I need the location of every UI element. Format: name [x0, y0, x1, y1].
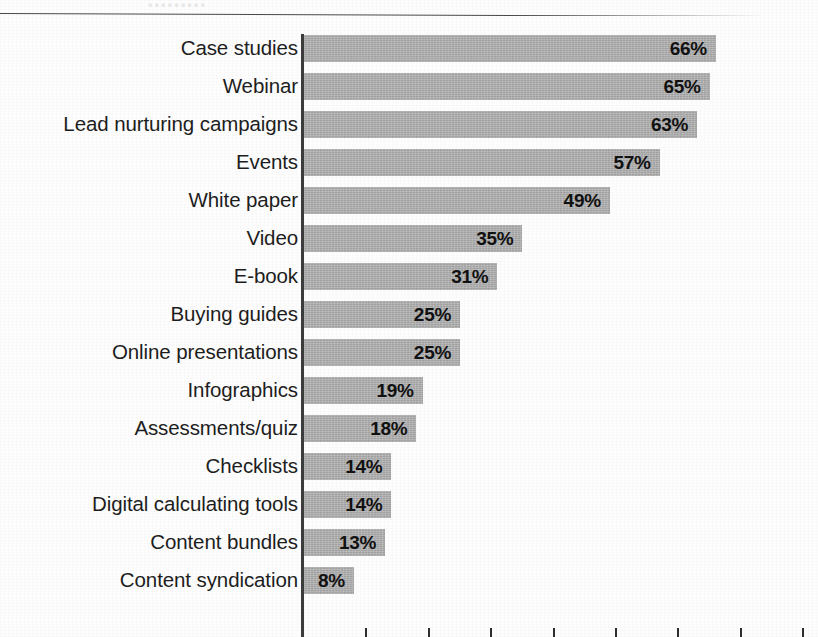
- bar-row: E-book31%: [0, 262, 818, 300]
- bar-category-label: Checklists: [206, 452, 298, 480]
- bar-value-label: 66%: [670, 37, 707, 60]
- bar-rows-container: Case studies66%Webinar65%Lead nurturing …: [0, 34, 818, 604]
- bar-row: Assessments/quiz18%: [0, 414, 818, 452]
- bar-row: Content bundles13%: [0, 528, 818, 566]
- category-axis-line: [301, 34, 304, 637]
- x-axis-tick: [802, 628, 804, 637]
- x-axis-tick: [428, 628, 430, 637]
- bar-row: Digital calculating tools14%: [0, 490, 818, 528]
- bar-category-label: Webinar: [223, 72, 298, 100]
- bar-category-label: White paper: [189, 186, 298, 214]
- bar: 25%: [304, 301, 460, 328]
- bar-row: Events57%: [0, 148, 818, 186]
- x-axis-tick: [615, 628, 617, 637]
- bar: 49%: [304, 187, 610, 214]
- bar-value-label: 35%: [476, 227, 513, 250]
- bar-row: Checklists14%: [0, 452, 818, 490]
- bar-value-label: 13%: [339, 531, 376, 554]
- bar-category-label: Infographics: [188, 376, 298, 404]
- bar-row: Content syndication8%: [0, 566, 818, 604]
- bar-value-label: 31%: [451, 265, 488, 288]
- bar: 31%: [304, 263, 497, 290]
- x-axis-tick: [677, 628, 679, 637]
- bar-row: Webinar65%: [0, 72, 818, 110]
- bar: 13%: [304, 529, 385, 556]
- bar-category-label: Content bundles: [150, 528, 298, 556]
- bar-category-label: Content syndication: [120, 566, 298, 594]
- cut-off-header-text: •••••••••: [148, 0, 348, 8]
- bar-value-label: 25%: [414, 303, 451, 326]
- bar-row: Buying guides25%: [0, 300, 818, 338]
- bar-category-label: Case studies: [181, 34, 298, 62]
- x-axis-tick: [365, 628, 367, 637]
- bar: 63%: [304, 111, 697, 138]
- x-axis-tick-marks: [0, 628, 818, 637]
- bar-value-label: 65%: [663, 75, 700, 98]
- bar-value-label: 8%: [318, 569, 345, 592]
- bar-value-label: 18%: [370, 417, 407, 440]
- bar: 14%: [304, 491, 391, 518]
- bar-category-label: Lead nurturing campaigns: [63, 110, 298, 138]
- bar: 25%: [304, 339, 460, 366]
- bar-category-label: Online presentations: [112, 338, 298, 366]
- bar-category-label: E-book: [234, 262, 298, 290]
- bar: 14%: [304, 453, 391, 480]
- bar-category-label: Video: [246, 224, 298, 252]
- bar-category-label: Events: [236, 148, 298, 176]
- bar-value-label: 14%: [345, 493, 382, 516]
- bar: 57%: [304, 149, 660, 176]
- bar-row: Lead nurturing campaigns63%: [0, 110, 818, 148]
- x-axis-tick: [740, 628, 742, 637]
- bar-value-label: 14%: [345, 455, 382, 478]
- bar-row: Case studies66%: [0, 34, 818, 72]
- bar-value-label: 63%: [651, 113, 688, 136]
- bar-row: Infographics19%: [0, 376, 818, 414]
- bar: 19%: [304, 377, 423, 404]
- bar-value-label: 25%: [414, 341, 451, 364]
- bar-category-label: Buying guides: [171, 300, 299, 328]
- x-axis-tick: [553, 628, 555, 637]
- bar-value-label: 19%: [376, 379, 413, 402]
- bar-row: Online presentations25%: [0, 338, 818, 376]
- bar-value-label: 49%: [564, 189, 601, 212]
- bar: 66%: [304, 35, 716, 62]
- bar-category-label: Digital calculating tools: [92, 490, 298, 518]
- bar: 18%: [304, 415, 416, 442]
- bar-row: White paper49%: [0, 186, 818, 224]
- top-horizontal-rule: [0, 12, 818, 16]
- bar: 65%: [304, 73, 710, 100]
- bar: 35%: [304, 225, 522, 252]
- x-axis-tick: [490, 628, 492, 637]
- bar: 8%: [304, 567, 354, 594]
- horizontal-bar-chart: Case studies66%Webinar65%Lead nurturing …: [0, 0, 818, 637]
- chart-page: ••••••••• Case studies66%Webinar65%Lead …: [0, 0, 818, 637]
- bar-category-label: Assessments/quiz: [134, 414, 298, 442]
- bar-value-label: 57%: [614, 151, 651, 174]
- bar-row: Video35%: [0, 224, 818, 262]
